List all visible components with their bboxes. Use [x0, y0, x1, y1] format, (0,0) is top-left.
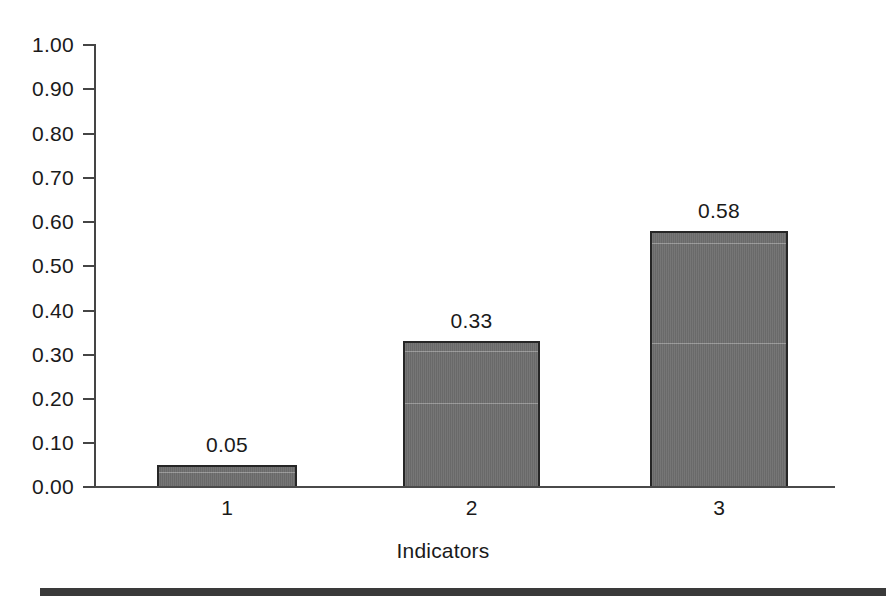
- y-axis-tick: [83, 354, 95, 356]
- y-axis-tick: [83, 44, 95, 46]
- bar-scanline: [405, 403, 538, 404]
- bar-value-label-2: 0.33: [403, 310, 540, 331]
- y-axis-tick: [83, 88, 95, 90]
- x-axis-title: Indicators: [0, 540, 886, 561]
- y-axis-tick-label: 0.90: [4, 78, 74, 99]
- bar-scanline: [652, 243, 786, 244]
- y-axis-tick-label: 0.70: [4, 167, 74, 188]
- y-axis-tick-label: 0.50: [4, 255, 74, 276]
- bar-value-label-3: 0.58: [650, 200, 788, 221]
- bar-3[interactable]: [650, 231, 788, 487]
- bar-2[interactable]: [403, 341, 540, 487]
- y-axis-tick-label: 1.00: [4, 34, 74, 55]
- y-axis-tick: [83, 133, 95, 135]
- y-axis-tick: [83, 486, 95, 488]
- y-axis-tick: [83, 221, 95, 223]
- x-axis-category-label-1: 1: [157, 497, 297, 518]
- x-axis-category-label-3: 3: [650, 497, 788, 518]
- bar-chart-figure: 1.00 0.90 0.80 0.70 0.60 0.50 0.40 0.30 …: [0, 0, 886, 611]
- y-axis-tick-label: 0.80: [4, 123, 74, 144]
- bar-scanline: [405, 351, 538, 352]
- y-axis-tick: [83, 177, 95, 179]
- bottom-divider-rule: [40, 588, 886, 596]
- bar-1[interactable]: [157, 465, 297, 487]
- y-axis-tick-label: 0.60: [4, 211, 74, 232]
- bar-scanline: [159, 472, 295, 473]
- x-axis-line: [95, 486, 835, 488]
- y-axis-tick-label: 0.40: [4, 300, 74, 321]
- y-axis-tick: [83, 442, 95, 444]
- x-axis-category-label-2: 2: [403, 497, 540, 518]
- y-axis-tick: [83, 265, 95, 267]
- y-axis-tick-label: 0.10: [4, 432, 74, 453]
- y-axis-tick-label: 0.30: [4, 344, 74, 365]
- bar-value-label-1: 0.05: [157, 434, 297, 455]
- y-axis-tick-label: 0.00: [4, 476, 74, 497]
- y-axis-tick: [83, 398, 95, 400]
- y-axis-tick: [83, 310, 95, 312]
- plot-area: [95, 45, 835, 487]
- bar-scanline: [652, 343, 786, 344]
- y-axis-tick-label: 0.20: [4, 388, 74, 409]
